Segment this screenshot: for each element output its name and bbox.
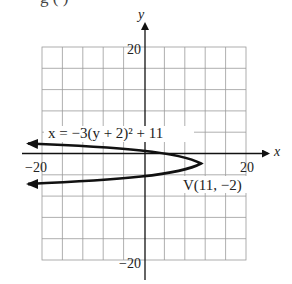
parabola-graph: y x 20 −20 −20 20 x = −3(y + 2)² + 11 V(… xyxy=(0,0,292,284)
x-min-label: −20 xyxy=(25,160,47,175)
y-min-label: −20 xyxy=(119,256,141,271)
x-max-label: 20 xyxy=(240,160,254,175)
equation-label: x = −3(y + 2)² + 11 xyxy=(48,125,163,142)
x-axis-label: x xyxy=(273,144,281,159)
parabola-curve xyxy=(28,144,201,185)
y-max-label: 20 xyxy=(127,42,141,57)
vertex-label: V(11, −2) xyxy=(183,177,242,194)
y-axis-label: y xyxy=(136,7,145,22)
